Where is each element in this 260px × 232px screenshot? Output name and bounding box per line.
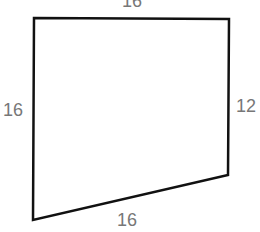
quadrilateral-outline (33, 18, 229, 220)
left-side-label: 16 (3, 101, 23, 119)
bottom-side-label: 16 (117, 211, 137, 229)
right-side-label: 12 (236, 97, 256, 115)
quadrilateral-figure (0, 0, 260, 232)
top-side-label: 16 (122, 0, 142, 10)
